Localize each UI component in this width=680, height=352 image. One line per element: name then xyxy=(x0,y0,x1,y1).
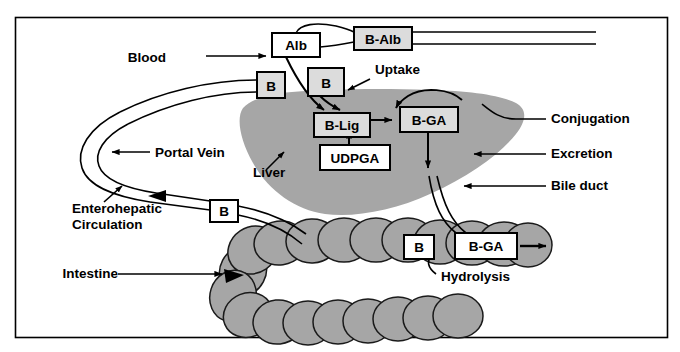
figure-root: Alb B-Alb B B B-Lig B-GA UDPGA xyxy=(0,0,680,352)
box-b-portal-label: B xyxy=(219,204,229,219)
box-b-blood[interactable]: B xyxy=(257,72,285,98)
box-b-lig-label: B-Lig xyxy=(325,118,360,133)
enterohepatic-circulation-diagram: Alb B-Alb B B B-Lig B-GA UDPGA xyxy=(0,0,680,352)
box-alb-label: Alb xyxy=(285,38,307,53)
box-alb[interactable]: Alb xyxy=(272,33,320,57)
box-b-ga-liver-label: B-GA xyxy=(412,113,447,128)
box-b-intestine-label: B xyxy=(414,240,424,255)
box-b-lig[interactable]: B-Lig xyxy=(314,113,370,137)
box-udpga-label: UDPGA xyxy=(331,151,380,166)
label-hydrolysis: Hydrolysis xyxy=(441,269,510,284)
box-b-ga-liver[interactable]: B-GA xyxy=(400,107,458,132)
box-b-ga-intestine-label: B-GA xyxy=(469,239,504,254)
label-excretion: Excretion xyxy=(551,146,613,161)
label-uptake: Uptake xyxy=(375,62,421,77)
label-conjugation: Conjugation xyxy=(551,111,630,126)
label-blood: Blood xyxy=(128,50,166,65)
box-b-ga-intestine[interactable]: B-GA xyxy=(455,233,517,259)
box-b-intestine[interactable]: B xyxy=(404,235,434,259)
box-udpga[interactable]: UDPGA xyxy=(320,145,390,170)
label-enterohepatic-circulation-line2: Circulation xyxy=(72,217,143,232)
box-b-uptake[interactable]: B xyxy=(308,68,344,96)
label-enterohepatic-circulation-line1: Enterohepatic xyxy=(72,201,163,216)
label-liver: Liver xyxy=(253,165,286,180)
box-b-alb-label: B-Alb xyxy=(365,32,401,47)
label-portal-vein: Portal Vein xyxy=(155,145,225,160)
label-intestine: Intestine xyxy=(62,266,118,281)
label-bile-duct: Bile duct xyxy=(551,178,609,193)
box-b-uptake-label: B xyxy=(321,76,331,91)
box-b-alb[interactable]: B-Alb xyxy=(354,27,412,50)
box-b-blood-label: B xyxy=(266,79,276,94)
box-b-portal[interactable]: B xyxy=(210,200,238,222)
